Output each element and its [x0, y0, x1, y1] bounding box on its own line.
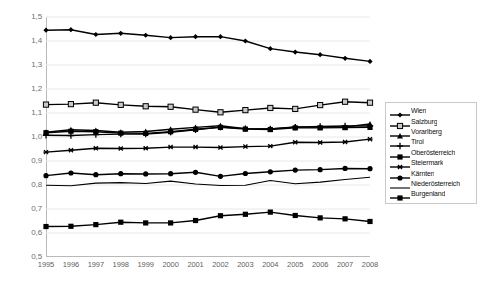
legend-marker-none-icon	[389, 179, 411, 189]
y-tick-label: 1,2	[4, 85, 42, 93]
legend-item-tirol[interactable]: Tirol	[388, 137, 474, 147]
legend-marker-diamond-icon	[389, 106, 411, 116]
x-tick-label: 2008	[350, 260, 390, 269]
legend-item-steiermark[interactable]: Steiermark	[388, 158, 474, 168]
legend-label: Steiermark	[411, 159, 443, 167]
legend: WienSalzburgVorarlbergTirolOberösterreic…	[385, 102, 477, 204]
legend-marker-circle-icon	[389, 169, 411, 179]
legend-item-wien[interactable]: Wien	[388, 106, 474, 116]
y-tick-label: 1,4	[4, 37, 42, 45]
legend-item-salzburg[interactable]: Salzburg	[388, 116, 474, 126]
legend-label: Salzburg	[411, 118, 437, 126]
y-tick-label: 1,5	[4, 13, 42, 21]
plot-area	[46, 17, 370, 257]
legend-marker-asterisk-icon	[389, 158, 411, 168]
legend-label: Wien	[411, 107, 426, 115]
legend-label: Niederösterreich	[411, 180, 460, 188]
legend-label: Oberösterreich	[411, 149, 455, 157]
x-axis-tick-labels: 1995199619971998199920002001200220032004…	[46, 260, 370, 276]
legend-marker-filled-square-icon	[389, 189, 411, 199]
legend-marker-plus-icon	[389, 137, 411, 147]
legend-item-oberösterreich[interactable]: Oberösterreich	[388, 148, 474, 158]
y-axis-tick-labels: 1,51,41,31,21,11,00,90,80,70,60,5	[0, 0, 42, 296]
legend-item-kärnten[interactable]: Kärnten	[388, 168, 474, 178]
marker-filled-square	[397, 196, 402, 201]
y-tick-label: 0,7	[4, 205, 42, 213]
y-tick-label: 0,9	[4, 157, 42, 165]
legend-marker-open-square-icon	[389, 117, 411, 127]
legend-item-vorarlberg[interactable]: Vorarlberg	[388, 127, 474, 137]
y-tick-label: 1,0	[4, 133, 42, 141]
legend-item-burgenland[interactable]: Burgenland	[388, 189, 474, 199]
legend-marker-square-icon	[389, 148, 411, 158]
legend-label: Kärnten	[411, 170, 434, 178]
y-tick-label: 0,8	[4, 181, 42, 189]
legend-label: Burgenland	[411, 190, 445, 198]
y-tick-label: 0,6	[4, 229, 42, 237]
y-tick-label: 1,1	[4, 109, 42, 117]
legend-marker-triangle-icon	[389, 127, 411, 137]
legend-label: Tirol	[411, 138, 424, 146]
legend-label: Vorarlberg	[411, 128, 442, 136]
chart-root: 1,51,41,31,21,11,00,90,80,70,60,5 199519…	[0, 0, 480, 296]
legend-item-niederösterreich[interactable]: Niederösterreich	[388, 179, 474, 189]
y-tick-label: 1,3	[4, 61, 42, 69]
